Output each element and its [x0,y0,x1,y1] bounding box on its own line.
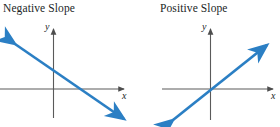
y-axis-label: y [45,22,49,32]
x-axis-label: x [122,91,126,101]
y-axis-label: y [202,22,206,32]
x-axis-label: x [271,91,275,101]
slope-comparison-figure: Negative Slope y x [0,0,280,127]
plot-negative-slope [0,0,140,127]
plot-positive-slope [140,0,280,127]
panel-positive-slope: Positive Slope y x [140,0,280,127]
positive-slope-line [173,45,267,120]
negative-slope-line [15,44,124,119]
panel-negative-slope: Negative Slope y x [0,0,140,127]
